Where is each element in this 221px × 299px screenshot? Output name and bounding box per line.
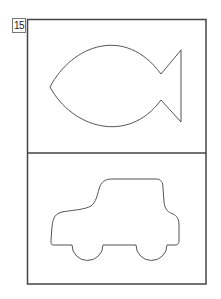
frame-border	[28, 20, 207, 285]
worksheet-frame	[0, 0, 221, 299]
car-icon	[51, 179, 179, 260]
fish-icon	[50, 45, 181, 126]
